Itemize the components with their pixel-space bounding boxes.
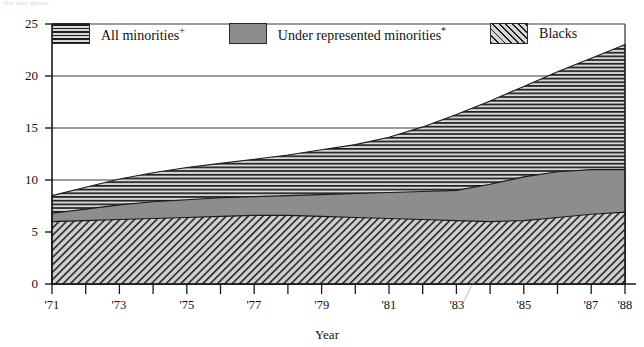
x-tick-label-79: '79: [305, 299, 339, 312]
area-chart-plot: [0, 0, 644, 347]
x-tick-label-77: '77: [237, 299, 271, 312]
legend-label-under-represented-minorities: Under represented minorities*: [278, 23, 446, 43]
chart-root: the text above: [0, 0, 644, 347]
x-tick-label-71: '71: [35, 299, 69, 312]
legend-swatch-diagonal-hatch-icon: [490, 23, 528, 44]
legend-item-under-represented-minorities[interactable]: Under represented minorities*: [229, 23, 446, 44]
legend-item-blacks[interactable]: Blacks: [490, 23, 577, 44]
x-tick-label-87: '87: [574, 299, 608, 312]
x-tick-label-85: '85: [507, 299, 541, 312]
y-axis-ticks: [45, 24, 52, 284]
legend-label-all-minorities: All minorities+: [101, 23, 185, 43]
x-tick-label-81: '81: [372, 299, 406, 312]
x-tick-label-73: '73: [102, 299, 136, 312]
x-tick-label-88: '88: [608, 299, 642, 312]
legend-swatch-horizontal-lines-icon: [52, 23, 90, 44]
y-tick-label-10: 10: [8, 173, 38, 186]
legend-swatch-solid-gray-icon: [229, 23, 267, 44]
x-tick-label-83: '83: [440, 299, 474, 312]
y-tick-label-25: 25: [8, 17, 38, 30]
chart-legend: All minorities+ Under represented minori…: [52, 20, 612, 46]
legend-label-all-minorities-text: All minorities: [101, 28, 179, 43]
area-blacks: [52, 212, 625, 284]
legend-label-under-represented-minorities-text: Under represented minorities: [278, 28, 441, 43]
legend-label-blacks: Blacks: [539, 26, 577, 41]
y-tick-label-15: 15: [8, 121, 38, 134]
legend-marker-asterisk: *: [441, 25, 446, 36]
legend-marker-plus: +: [179, 25, 185, 36]
x-axis-ticks: [52, 284, 625, 294]
y-tick-label-20: 20: [8, 69, 38, 82]
x-tick-label-75: '75: [170, 299, 204, 312]
x-axis-title: Year: [302, 328, 352, 342]
legend-item-all-minorities[interactable]: All minorities+: [52, 23, 185, 44]
y-tick-label-0: 0: [8, 277, 38, 290]
y-tick-label-5: 5: [8, 225, 38, 238]
